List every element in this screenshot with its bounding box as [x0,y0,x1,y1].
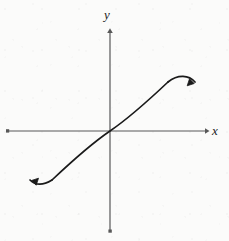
y-axis-arrowhead [107,28,113,33]
x-axis-label: x [212,124,218,137]
x-axis-arrowhead [205,128,210,134]
figure-canvas: y x [0,0,229,241]
y-axis-label: y [104,8,110,21]
y-axis-bottom-tick [108,230,111,233]
x-axis-origin-tick [6,129,9,132]
coordinate-plot [0,0,229,241]
